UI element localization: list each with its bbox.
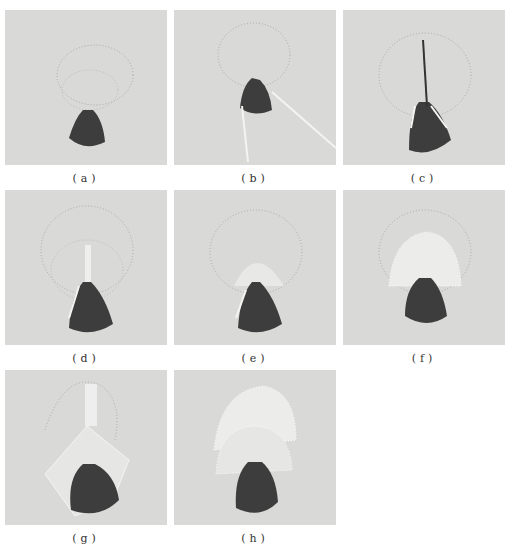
caption-e: (e) [174, 352, 336, 365]
caption-h: (h) [174, 532, 336, 545]
embroidery-image [343, 190, 505, 345]
caption-c: (c) [343, 172, 505, 185]
photo-panel-d [5, 190, 167, 345]
embroidery-image [5, 10, 167, 165]
photo-panel-e [174, 190, 336, 345]
caption-a: (a) [5, 172, 167, 185]
embroidery-image [5, 190, 167, 345]
caption-g: (g) [5, 532, 167, 545]
embroidery-image [174, 10, 336, 165]
caption-b: (b) [174, 172, 336, 185]
photo-panel-a [5, 10, 167, 165]
embroidery-image [343, 10, 505, 165]
photo-panel-f [343, 190, 505, 345]
photo-panel-h [174, 370, 336, 525]
caption-d: (d) [5, 352, 167, 365]
photo-panel-c [343, 10, 505, 165]
embroidery-image [174, 190, 336, 345]
photo-panel-g [5, 370, 167, 525]
embroidery-image [174, 370, 336, 525]
caption-f: (f) [343, 352, 505, 365]
embroidery-image [5, 370, 167, 525]
photo-panel-b [174, 10, 336, 165]
